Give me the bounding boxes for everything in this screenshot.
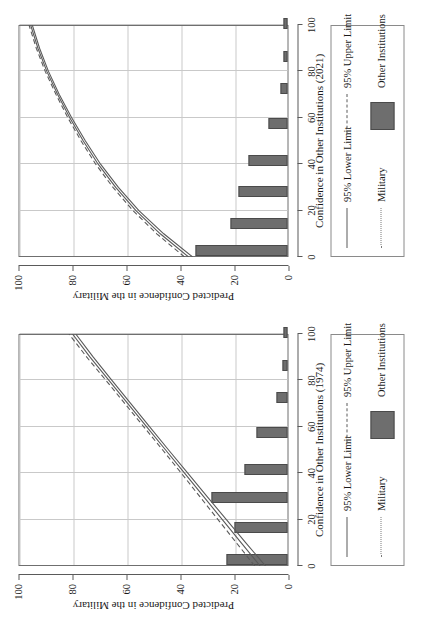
x-axis-tick	[297, 256, 302, 257]
legend-item-military-2021: Military	[375, 168, 386, 248]
legend-item-other-institutions-1974: Other Institutions	[375, 323, 386, 443]
legend-item-upper-limit-2021: 95% Upper Limit	[341, 14, 352, 134]
gridline-vertical	[19, 333, 287, 334]
legend-item-upper-limit-1974: 95% Upper Limit	[341, 323, 352, 443]
dotted-line-icon	[376, 208, 386, 248]
solid-line-icon	[342, 208, 352, 248]
dashed-line-icon	[342, 94, 352, 134]
legend-1974: 95% Lower Limit 95% Upper Limit Military…	[330, 334, 404, 566]
x-axis-tick	[297, 426, 302, 427]
legend-item-lower-limit-1974: 95% Lower Limit	[341, 436, 352, 557]
yaxis-title-1974: Predicted Confidence in the Military	[18, 600, 288, 612]
y-axis-tick	[234, 575, 235, 580]
legend-item-lower-limit-2021: 95% Lower Limit	[341, 127, 352, 248]
x-axis-tick	[297, 472, 302, 473]
figure-canvas: 020406080100020406080100 Confidence in O…	[0, 0, 433, 618]
x-axis-line	[297, 25, 298, 257]
y-axis-tick	[72, 575, 73, 580]
xaxis-title-2021: Confidence in Other Institutions (2021)	[312, 25, 324, 257]
y-axis-tick	[18, 266, 19, 271]
bar-swatch-icon	[376, 403, 386, 443]
solid-line-icon	[342, 517, 352, 557]
curve-95-lower-limit	[75, 334, 265, 566]
gridline-vertical	[19, 24, 287, 25]
y-axis-tick	[180, 266, 181, 271]
x-axis-tick	[297, 379, 302, 380]
x-axis-tick	[297, 24, 302, 25]
x-axis-line	[297, 334, 298, 566]
x-axis-tick	[297, 333, 302, 334]
x-axis-tick	[297, 519, 302, 520]
y-axis-tick	[126, 575, 127, 580]
curve-95-lower-limit	[32, 25, 192, 257]
y-axis-line	[18, 574, 288, 575]
x-axis-tick	[297, 163, 302, 164]
x-axis-tick	[297, 565, 302, 566]
xaxis-title-1974: Confidence in Other Institutions (1974)	[312, 334, 324, 566]
y-axis-tick	[234, 266, 235, 271]
legend-item-other-institutions-2021: Other Institutions	[375, 14, 386, 134]
curve-95-upper-limit	[68, 334, 254, 566]
legend-2021: 95% Lower Limit 95% Upper Limit Military…	[330, 25, 404, 257]
y-axis-tick	[126, 266, 127, 271]
dotted-line-icon	[376, 517, 386, 557]
y-axis-tick	[180, 575, 181, 580]
x-axis-tick	[297, 70, 302, 71]
figure-root: 020406080100020406080100 Confidence in O…	[0, 0, 433, 618]
dashed-line-icon	[342, 403, 352, 443]
panel-2021: 020406080100020406080100 Confidence in O…	[0, 0, 433, 309]
curve-predicted-fit	[72, 334, 260, 566]
panel-1974: 020406080100020406080100 Confidence in O…	[0, 309, 433, 618]
x-axis-tick	[297, 210, 302, 211]
y-axis-tick	[288, 575, 289, 580]
curve-predicted-fit	[30, 25, 188, 257]
y-axis-tick	[18, 575, 19, 580]
bar-swatch-icon	[376, 94, 386, 134]
y-axis-tick	[288, 266, 289, 271]
y-axis-line	[18, 265, 288, 266]
yaxis-title-2021: Predicted Confidence in the Military	[18, 291, 288, 303]
curve-95-upper-limit	[29, 25, 185, 257]
y-axis-tick	[72, 266, 73, 271]
x-axis-tick	[297, 117, 302, 118]
legend-item-military-1974: Military	[375, 477, 386, 557]
